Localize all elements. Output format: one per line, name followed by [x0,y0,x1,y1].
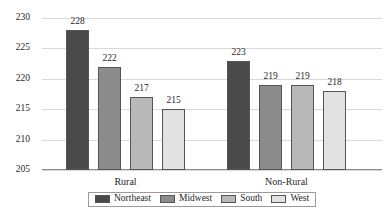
y-axis-tick-label: 230 [0,13,30,23]
bar-midwest-non-rural [259,85,282,170]
bar-south-non-rural [291,85,314,170]
legend-item-west: West [271,194,309,204]
bar-value-label: 222 [90,54,130,64]
legend-label-midwest: Midwest [179,194,212,204]
bar-value-label: 215 [154,96,194,106]
legend-label-west: West [290,194,309,204]
y-axis-tick-label: 205 [0,165,30,175]
legend-swatch-west [271,195,286,203]
bar-west-non-rural [323,91,346,170]
y-axis-tick-label: 210 [0,135,30,145]
legend-swatch-south [221,195,236,203]
gridline [42,48,382,49]
bar-value-label: 218 [315,78,355,88]
y-axis-tick-label: 225 [0,43,30,53]
bar-midwest-rural [98,67,121,170]
group-label-rural: Rural [66,177,186,187]
bar-value-label: 217 [122,84,162,94]
group-label-non-rural: Non-Rural [227,177,347,187]
legend-swatch-northeast [95,195,110,203]
legend-label-northeast: Northeast [114,194,151,204]
bar-chart: 205210215220225230 228222217215223219219… [0,0,390,218]
bar-value-label: 223 [219,48,259,58]
legend-item-south: South [221,194,262,204]
legend-item-northeast: Northeast [95,194,151,204]
legend-swatch-midwest [160,195,175,203]
y-axis-tick-label: 220 [0,74,30,84]
legend-label-south: South [240,194,262,204]
plot-area: 205210215220225230 228222217215223219219… [42,18,382,170]
bar-south-rural [130,97,153,170]
y-axis-tick-label: 215 [0,104,30,114]
bar-value-label: 228 [58,17,98,27]
chart-legend: Northeast Midwest South West [88,192,316,207]
gridline [42,170,382,171]
legend-item-midwest: Midwest [160,194,212,204]
bar-northeast-rural [66,30,89,170]
bar-west-rural [162,109,185,170]
bar-northeast-non-rural [227,61,250,170]
